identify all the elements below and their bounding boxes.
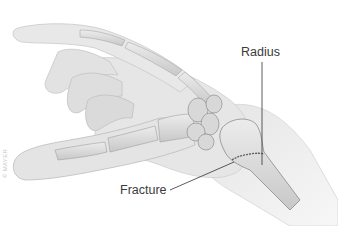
radius-label: Radius (241, 46, 280, 59)
wrist-fracture-diagram: Radius Fracture © MAYER (0, 0, 338, 226)
fracture-label: Fracture (120, 184, 167, 197)
hand-illustration (0, 0, 338, 226)
copyright-watermark: © MAYER (2, 128, 8, 178)
